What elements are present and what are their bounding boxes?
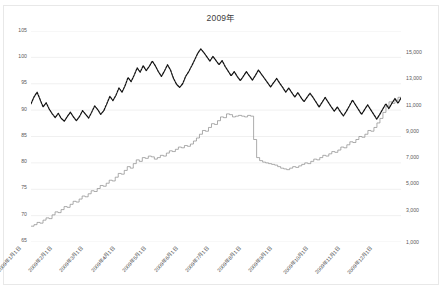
y-axis-left-tick-5: 80 bbox=[3, 159, 27, 164]
y-axis-left-tick-1: 100 bbox=[3, 54, 27, 59]
y-axis-left-tick-4: 85 bbox=[3, 133, 27, 138]
y-axis-right-tick-1: 13,000 bbox=[406, 76, 440, 81]
y-axis-left-tick-3: 90 bbox=[3, 107, 27, 112]
y-axis-right-tick-2: 11,000 bbox=[406, 103, 440, 108]
plot-area bbox=[31, 31, 401, 242]
y-axis-right-tick-7: 1,000 bbox=[406, 240, 440, 245]
y-axis-right-tick-3: 9,000 bbox=[406, 129, 440, 134]
y-axis-right-tick-0: 15,000 bbox=[406, 50, 440, 55]
y-axis-left-tick-6: 75 bbox=[3, 185, 27, 190]
y-axis-left-tick-7: 70 bbox=[3, 212, 27, 217]
y-axis-right-tick-4: 7,000 bbox=[406, 155, 440, 160]
y-axis-left-tick-2: 95 bbox=[3, 80, 27, 85]
y-axis-left-tick-8: 65 bbox=[3, 238, 27, 243]
y-axis-left-tick-0: 105 bbox=[3, 28, 27, 33]
gridlines bbox=[31, 31, 401, 242]
chart-title: 2009年 bbox=[0, 11, 442, 23]
y-axis-right-tick-6: 3,000 bbox=[406, 208, 440, 213]
series-right-axis-line bbox=[31, 97, 401, 226]
chart-container: 2009年 105 100 95 90 85 80 75 70 65 15,00… bbox=[0, 0, 442, 289]
series-canvas bbox=[31, 31, 401, 242]
y-axis-right-tick-5: 5,000 bbox=[406, 181, 440, 186]
